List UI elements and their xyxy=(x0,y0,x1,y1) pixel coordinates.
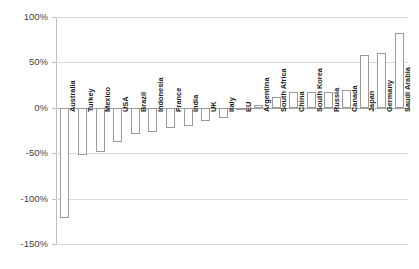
y-tick-mark xyxy=(52,108,56,109)
bar-chart: 100%50%0%-50%-100%-150% AustraliaTurkeyM… xyxy=(0,0,419,269)
category-label: Germany xyxy=(385,80,394,112)
category-label: Italy xyxy=(227,97,236,112)
y-axis-label: -100% xyxy=(2,193,48,204)
category-label: France xyxy=(174,88,183,112)
category-label: Indonesia xyxy=(156,77,165,112)
bar xyxy=(96,108,105,152)
y-axis-label: -150% xyxy=(2,238,48,249)
y-axis-label: 50% xyxy=(2,56,48,67)
category-label: South Africa xyxy=(279,68,288,112)
gridline-100 xyxy=(56,17,408,18)
y-axis-label: 100% xyxy=(2,11,48,22)
category-label: India xyxy=(191,95,200,112)
y-axis-label: -50% xyxy=(2,147,48,158)
gridline-50 xyxy=(56,62,408,63)
bar xyxy=(113,108,122,143)
category-tick xyxy=(56,108,57,111)
category-label: UK xyxy=(209,101,218,112)
plot-area xyxy=(56,17,408,244)
category-label: China xyxy=(297,91,306,112)
gridline--100 xyxy=(56,199,408,200)
category-label: Australia xyxy=(68,80,77,112)
y-tick-mark xyxy=(52,244,56,245)
y-axis-label: 0% xyxy=(2,102,48,113)
bar xyxy=(78,108,87,155)
category-label: Turkey xyxy=(86,88,95,112)
category-label: Argentina xyxy=(262,77,271,112)
bar xyxy=(60,108,69,218)
y-tick-mark xyxy=(52,62,56,63)
y-tick-mark xyxy=(52,199,56,200)
category-label: USA xyxy=(121,96,130,112)
y-tick-mark xyxy=(52,153,56,154)
category-label: Brazil xyxy=(139,92,148,112)
category-label: EU xyxy=(244,102,253,112)
category-label: Japan xyxy=(367,90,376,111)
category-label: Canada xyxy=(350,85,359,112)
category-label: Saudi Arabia xyxy=(403,67,412,112)
category-label: Mexico xyxy=(103,87,112,112)
category-label: Russia xyxy=(332,88,341,112)
category-label: South Korea xyxy=(315,68,324,112)
gridline--50 xyxy=(56,153,408,154)
gridline--150 xyxy=(56,244,408,245)
y-tick-mark xyxy=(52,17,56,18)
